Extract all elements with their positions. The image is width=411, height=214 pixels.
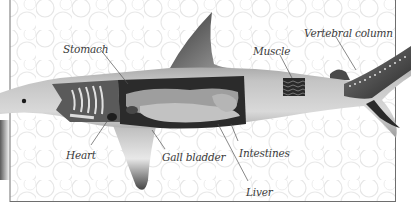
muscle-patch	[283, 78, 305, 96]
label-stomach: Stomach	[63, 43, 108, 55]
label-intestines: Intestines	[239, 147, 290, 159]
label-muscle: Muscle	[253, 45, 290, 57]
label-vertebral-column: Vertebral column	[304, 27, 393, 39]
label-liver: Liver	[246, 186, 273, 198]
label-gall-bladder: Gall bladder	[162, 151, 225, 163]
gall-bladder-organ	[126, 106, 138, 114]
label-heart: Heart	[66, 149, 96, 161]
eye	[22, 99, 26, 103]
heart-organ	[107, 113, 117, 121]
shark-anatomy-diagram: Stomach Muscle Vertebral column Heart Ga…	[0, 0, 411, 214]
